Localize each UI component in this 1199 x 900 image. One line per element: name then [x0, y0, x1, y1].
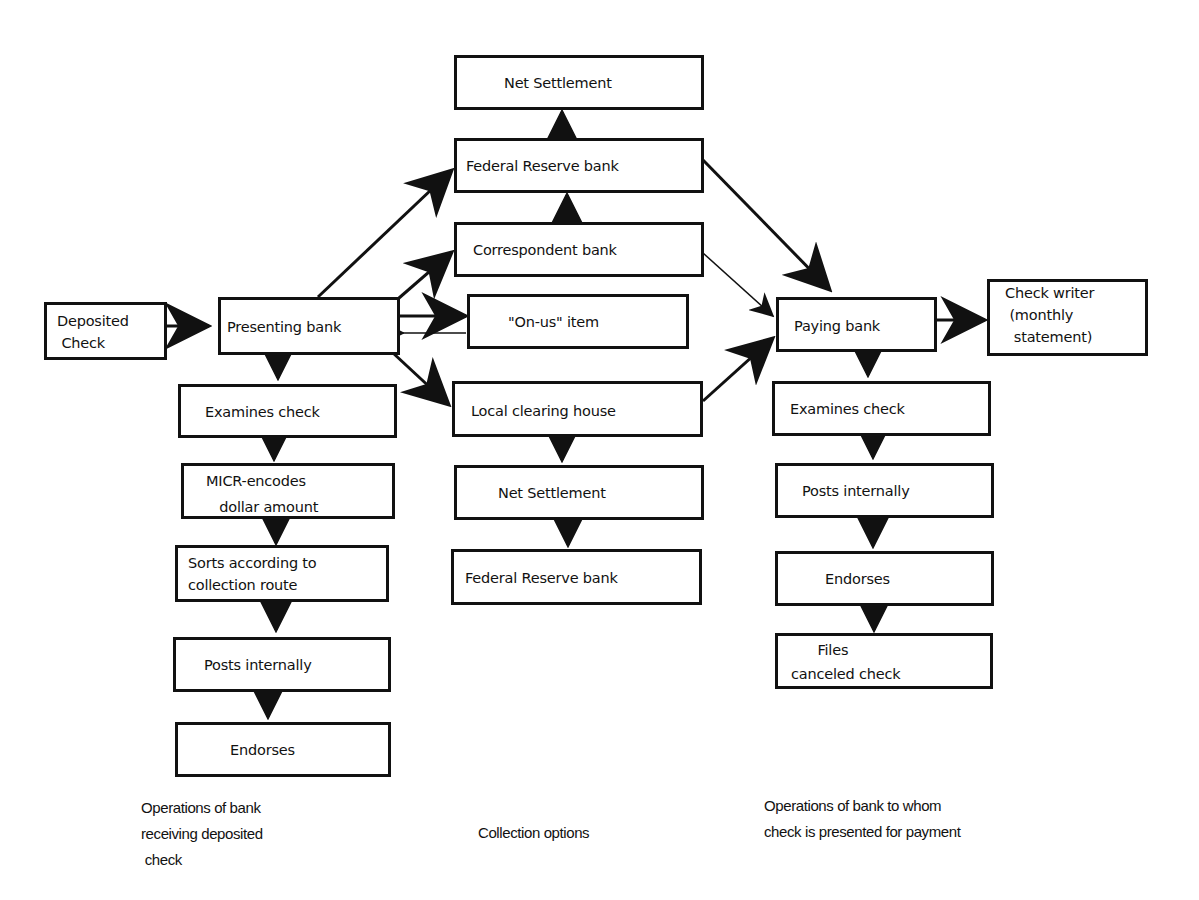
box-label: Federal Reserve bank — [466, 155, 619, 177]
box-label: Local clearing house — [471, 400, 616, 422]
box-label: MICR-encodes dollar amount — [206, 468, 318, 520]
box-label: Files canceled check — [791, 638, 900, 686]
box-on-us-item: "On-us" item — [467, 294, 689, 349]
caption-right: Operations of bank to whom check is pres… — [764, 793, 960, 845]
box-check-writer: Check writer (monthly statement) — [987, 279, 1148, 356]
box-label: Sorts according to collection route — [188, 552, 317, 596]
box-label: Endorses — [825, 568, 890, 590]
box-label: Check writer (monthly statement) — [1005, 282, 1094, 348]
box-label: Paying bank — [794, 315, 880, 337]
box-net-settlement-bottom: Net Settlement — [454, 465, 704, 520]
box-label: Net Settlement — [504, 72, 612, 94]
box-right-posts-internally: Posts internally — [775, 463, 994, 518]
box-label: Net Settlement — [498, 482, 606, 504]
box-label: Correspondent bank — [473, 239, 617, 261]
check-collection-flowchart: Deposited Check Presenting bank Examines… — [0, 0, 1199, 900]
box-paying-bank: Paying bank — [776, 297, 937, 352]
box-presenting-bank: Presenting bank — [218, 297, 400, 355]
box-label: Presenting bank — [227, 316, 341, 338]
box-deposited-check: Deposited Check — [44, 302, 167, 360]
box-label: Examines check — [205, 401, 320, 423]
box-label: Posts internally — [802, 480, 910, 502]
box-sorts-collection-route: Sorts according to collection route — [175, 545, 389, 602]
caption-left: Operations of bank receiving deposited c… — [141, 795, 263, 873]
box-left-posts-internally: Posts internally — [173, 637, 391, 692]
box-right-examines-check: Examines check — [772, 381, 991, 436]
box-micr-encodes: MICR-encodes dollar amount — [181, 463, 395, 519]
box-net-settlement-top: Net Settlement — [454, 55, 704, 110]
caption-middle: Collection options — [478, 820, 589, 846]
box-federal-reserve-bottom: Federal Reserve bank — [451, 549, 702, 605]
box-label: "On-us" item — [508, 311, 599, 333]
box-label: Posts internally — [204, 654, 312, 676]
box-label: Federal Reserve bank — [465, 567, 618, 589]
box-right-endorses: Endorses — [775, 551, 994, 606]
box-federal-reserve-top: Federal Reserve bank — [454, 138, 704, 193]
box-label: Endorses — [230, 739, 295, 761]
box-correspondent-bank: Correspondent bank — [454, 222, 704, 277]
box-local-clearing-house: Local clearing house — [452, 381, 703, 437]
box-left-examines-check: Examines check — [178, 384, 397, 438]
box-left-endorses: Endorses — [175, 722, 391, 777]
box-label: Examines check — [790, 398, 905, 420]
box-files-canceled-check: Files canceled check — [775, 633, 993, 689]
box-label: Deposited Check — [57, 310, 129, 354]
